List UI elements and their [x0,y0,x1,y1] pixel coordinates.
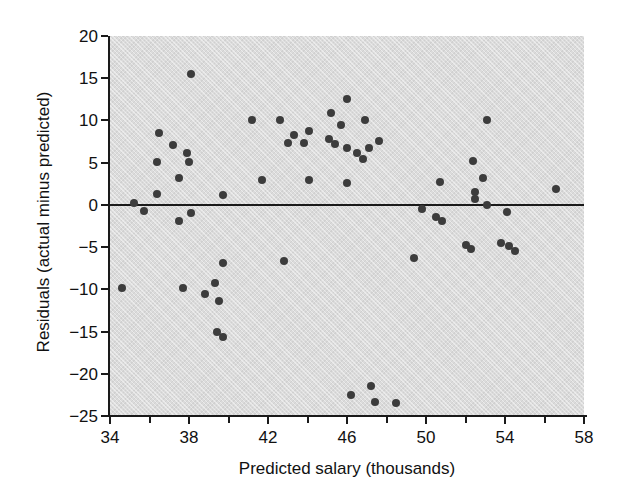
residual-plot-figure: 20151050−5−10−15−20−25 34384246505458 Pr… [0,0,625,504]
data-point [175,217,183,225]
y-tick-mark [101,119,108,121]
x-tick-label: 50 [417,429,436,446]
x-minor-tick-mark [149,417,151,423]
plot-area [110,36,584,416]
x-tick-label: 38 [180,429,199,446]
y-tick-mark [101,415,108,417]
data-point [130,199,138,207]
x-tick-mark [109,417,111,424]
data-point [185,158,193,166]
zero-reference-line [110,204,584,206]
x-minor-tick-mark [228,417,230,423]
data-point [140,207,148,215]
data-point [290,131,298,139]
data-point [300,139,308,147]
data-point [219,333,227,341]
x-tick-mark [267,417,269,424]
x-tick-mark [425,417,427,424]
data-point [365,144,373,152]
data-point [276,116,284,124]
y-axis-label: Residuals (actual minus predicted) [34,92,54,353]
data-point [436,178,444,186]
x-tick-label: 54 [496,429,515,446]
y-tick-label: 20 [52,28,98,45]
y-tick-label: −5 [52,239,98,256]
y-tick-label: 5 [52,154,98,171]
data-point [211,279,219,287]
x-tick-label: 58 [575,429,594,446]
y-tick-mark [101,331,108,333]
data-point [343,179,351,187]
x-tick-label: 46 [338,429,357,446]
x-tick-mark [583,417,585,424]
y-tick-label: −10 [52,281,98,298]
y-axis-line [108,36,110,417]
y-tick-label: −25 [52,408,98,425]
x-tick-mark [504,417,506,424]
x-minor-tick-mark [465,417,467,423]
data-point [219,259,227,267]
y-tick-label: −15 [52,323,98,340]
y-tick-mark [101,288,108,290]
y-tick-mark [101,77,108,79]
data-point [215,297,223,305]
data-point [187,70,195,78]
data-point [375,137,383,145]
y-tick-label: 15 [52,70,98,87]
data-point [284,139,292,147]
x-tick-label: 42 [259,429,278,446]
data-point [327,109,335,117]
y-tick-label: 0 [52,196,98,213]
x-tick-mark [346,417,348,424]
data-point [371,398,379,406]
data-point [219,191,227,199]
x-minor-tick-mark [307,417,309,423]
y-tick-mark [101,162,108,164]
data-point [183,149,191,157]
data-point [337,121,345,129]
y-tick-mark [101,204,108,206]
y-tick-mark [101,35,108,37]
y-tick-label: 10 [52,112,98,129]
data-point [248,116,256,124]
x-minor-tick-mark [544,417,546,423]
x-tick-mark [188,417,190,424]
x-tick-label: 34 [101,429,120,446]
data-point [175,174,183,182]
x-axis-label: Predicted salary (thousands) [110,459,584,479]
x-minor-tick-mark [386,417,388,423]
y-tick-mark [101,246,108,248]
data-point [438,217,446,225]
y-tick-label: −20 [52,365,98,382]
data-point [347,391,355,399]
data-point [497,239,505,247]
y-tick-mark [101,373,108,375]
